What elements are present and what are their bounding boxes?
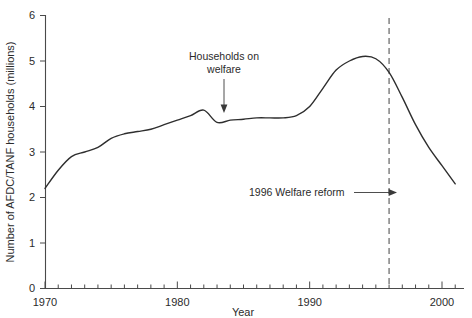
y-axis-tick-labels: 0 1 2 3 4 5 6 <box>29 9 35 294</box>
y-tick-label-3: 3 <box>29 146 35 158</box>
annotation-welfare-reform: 1996 Welfare reform <box>249 186 397 198</box>
line-chart-canvas: 0 1 2 3 4 5 6 1970 1980 1990 2000 Year N… <box>0 0 472 318</box>
x-tick-label-1980: 1980 <box>165 296 189 308</box>
y-tick-label-0: 0 <box>29 282 35 294</box>
y-axis-title: Number of AFDC/TANF households (millions… <box>4 41 16 262</box>
y-tick-label-5: 5 <box>29 55 35 67</box>
y-tick-label-2: 2 <box>29 191 35 203</box>
annotation-households-line2: welfare <box>206 63 241 75</box>
series-line-households-on-welfare <box>45 56 455 188</box>
x-axis-title: Year <box>232 306 255 318</box>
x-tick-label-1990: 1990 <box>297 296 321 308</box>
annotation-households-on-welfare: Households on welfare <box>189 50 259 113</box>
x-tick-label-2000: 2000 <box>430 296 454 308</box>
annotation-welfare-reform-text: 1996 Welfare reform <box>249 186 345 198</box>
annotation-households-line1: Households on <box>189 50 259 62</box>
x-axis-ticks <box>45 282 455 289</box>
y-tick-label-6: 6 <box>29 9 35 21</box>
y-tick-label-1: 1 <box>29 237 35 249</box>
y-tick-label-4: 4 <box>29 100 35 112</box>
annotation-welfare-reform-arrowhead <box>389 189 397 196</box>
chart-figure: 0 1 2 3 4 5 6 1970 1980 1990 2000 Year N… <box>0 0 472 318</box>
annotation-households-arrowhead <box>221 105 228 114</box>
x-tick-label-1970: 1970 <box>33 296 57 308</box>
